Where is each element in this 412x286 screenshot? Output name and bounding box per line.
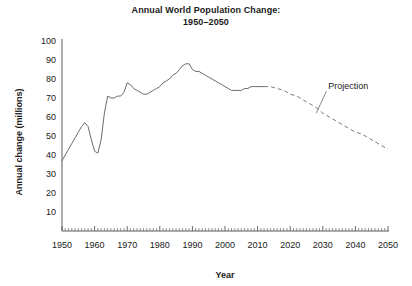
chart-plot-area: 102030405060708090100 195019601970198019… — [0, 0, 412, 286]
x-axis-tick-label: 2040 — [345, 240, 365, 250]
x-axis-tick-label: 1980 — [150, 240, 170, 250]
x-axis-tick-label: 1950 — [52, 240, 72, 250]
y-axis-tick-label: 100 — [41, 36, 56, 46]
x-axis-title: Year — [215, 270, 235, 280]
x-axis-tick-label: 2030 — [313, 240, 333, 250]
y-axis-tick-label: 50 — [46, 131, 56, 141]
y-axis-tick-label: 40 — [46, 150, 56, 160]
x-axis: 1950196019701980199020002010202020302040… — [52, 226, 398, 250]
x-axis-tick-label: 1990 — [182, 240, 202, 250]
projection-leader-line — [316, 91, 326, 113]
data-series-group — [62, 64, 388, 161]
x-axis-tick-label: 1970 — [117, 240, 137, 250]
projection-line — [264, 87, 388, 150]
y-axis-tick-label: 60 — [46, 112, 56, 122]
chart-container: Annual World Population Change: 1950–205… — [0, 0, 412, 286]
annotation-group: Projection — [316, 81, 368, 113]
x-axis-tick-label: 2020 — [280, 240, 300, 250]
historical-line — [62, 64, 264, 161]
y-axis-tick-label: 30 — [46, 169, 56, 179]
y-axis-tick-label: 90 — [46, 55, 56, 65]
y-axis: 102030405060708090100 — [41, 36, 62, 231]
x-axis-tick-label: 1960 — [85, 240, 105, 250]
x-axis-tick-label: 2050 — [378, 240, 398, 250]
x-axis-tick-label: 2010 — [248, 240, 268, 250]
y-axis-tick-label: 70 — [46, 93, 56, 103]
y-axis-title: Annual change (millions) — [14, 88, 24, 195]
projection-annotation-label: Projection — [328, 81, 368, 91]
y-axis-tick-label: 80 — [46, 74, 56, 84]
x-axis-tick-label: 2000 — [215, 240, 235, 250]
chart-title-line1: Annual World Population Change: — [132, 5, 281, 15]
y-axis-tick-label: 10 — [46, 207, 56, 217]
y-axis-tick-label: 20 — [46, 188, 56, 198]
chart-title-line2: 1950–2050 — [0, 16, 412, 28]
chart-title: Annual World Population Change: 1950–205… — [0, 4, 412, 28]
